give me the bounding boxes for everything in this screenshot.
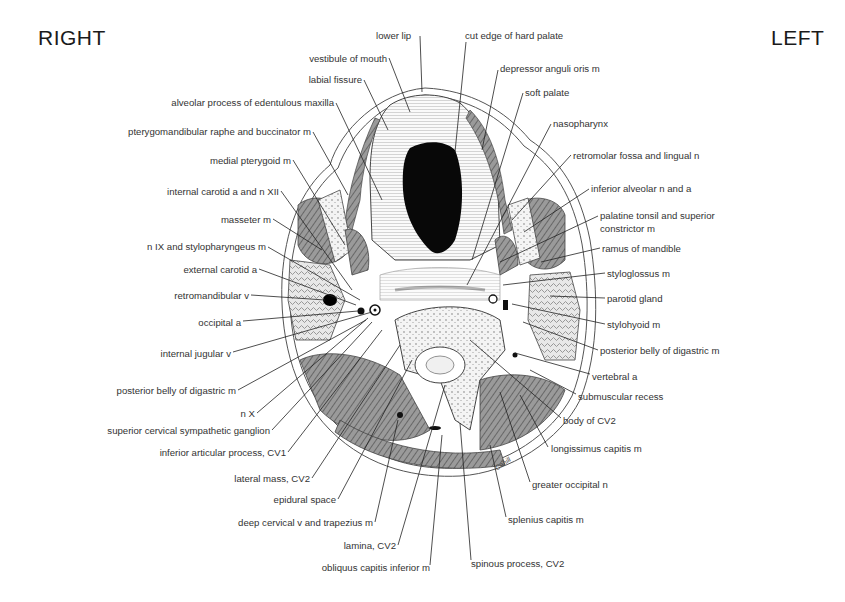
label-cut-edge-hard-palate: cut edge of hard palate — [465, 30, 563, 41]
label-obliquus-capitis-inferior: obliquus capitis inferior m — [322, 562, 430, 573]
cross-section-illustration — [0, 0, 845, 602]
label-lamina: lamina, CV2 — [344, 540, 396, 551]
label-medial-pterygoid: medial pterygoid m — [210, 155, 291, 166]
vessel-left-1 — [489, 295, 497, 303]
label-nasopharynx: nasopharynx — [553, 118, 608, 129]
retromandibular-vein — [323, 294, 337, 306]
medial-pterygoid-right — [345, 229, 369, 275]
label-parotid-gland: parotid gland — [607, 293, 662, 304]
label-palatine-tonsil: palatine tonsil and superior — [600, 210, 715, 221]
label-posterior-belly-digastric-left: posterior belly of digastric m — [600, 345, 719, 356]
label-masseter: masseter m — [221, 214, 271, 225]
spinal-cord — [426, 356, 454, 374]
label-labial-fissure: labial fissure — [309, 74, 362, 85]
label-deep-cervical-v: deep cervical v and trapezius m — [238, 517, 373, 528]
label-lower-lip: lower lip — [376, 30, 411, 41]
label-palatine-tonsil-line2: constrictor m — [600, 223, 655, 234]
label-epidural-space: epidural space — [274, 494, 336, 505]
label-retromandibular-v: retromandibular v — [174, 290, 249, 301]
label-pterygomandibular-raphe: pterygomandibular raphe and buccinator m — [128, 126, 311, 137]
label-spinous-process: spinous process, CV2 — [471, 558, 564, 569]
label-submuscular-recess: submuscular recess — [578, 391, 663, 402]
label-splenius-capitis: splenius capitis m — [508, 514, 584, 525]
label-internal-carotid: internal carotid a and n XII — [167, 186, 279, 197]
label-styloglossus: styloglossus m — [607, 268, 670, 279]
label-inferior-articular-process: inferior articular process, CV1 — [160, 447, 286, 458]
label-depressor-anguli-oris: depressor anguli oris m — [500, 63, 600, 74]
label-retromolar-fossa: retromolar fossa and lingual n — [573, 150, 699, 161]
label-body-of-cv2: body of CV2 — [563, 415, 616, 426]
label-greater-occipital-n: greater occipital n — [532, 479, 608, 490]
label-inferior-alveolar: inferior alveolar n and a — [591, 183, 691, 194]
parotid-left — [528, 272, 580, 360]
label-vertebral-a: vertebral a — [592, 371, 637, 382]
occipital-artery — [358, 308, 365, 315]
label-n-x: n X — [241, 408, 255, 419]
label-superior-cervical-ganglion: superior cervical sympathetic ganglion — [107, 425, 270, 436]
label-lateral-mass: lateral mass, CV2 — [234, 473, 310, 484]
posterior-muscles-left — [480, 375, 565, 450]
label-internal-jugular: internal jugular v — [161, 348, 231, 359]
label-occipital-a: occipital a — [198, 317, 241, 328]
label-ramus-of-mandible: ramus of mandible — [602, 243, 681, 254]
label-soft-palate: soft palate — [525, 87, 569, 98]
label-n-ix-stylopharyngeus: n IX and stylopharyngeus m — [147, 241, 266, 252]
label-stylohyoid: stylohyoid m — [607, 319, 660, 330]
label-posterior-belly-digastric-right: posterior belly of digastric m — [117, 385, 236, 396]
label-alveolar-process: alveolar process of edentulous maxilla — [171, 97, 334, 108]
label-longissimus-capitis: longissimus capitis m — [551, 443, 642, 454]
label-external-carotid: external carotid a — [183, 264, 257, 275]
vessel-left-2 — [503, 300, 508, 310]
label-vestibule-of-mouth: vestibule of mouth — [309, 53, 387, 64]
